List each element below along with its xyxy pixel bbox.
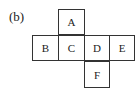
figure-label: (b) bbox=[9, 9, 24, 25]
cell-d: D bbox=[84, 35, 110, 61]
cell-e: E bbox=[109, 35, 135, 61]
cell-a: A bbox=[58, 9, 85, 35]
cell-c: C bbox=[58, 35, 85, 61]
cell-f: F bbox=[84, 61, 110, 88]
cell-b: B bbox=[32, 35, 59, 61]
